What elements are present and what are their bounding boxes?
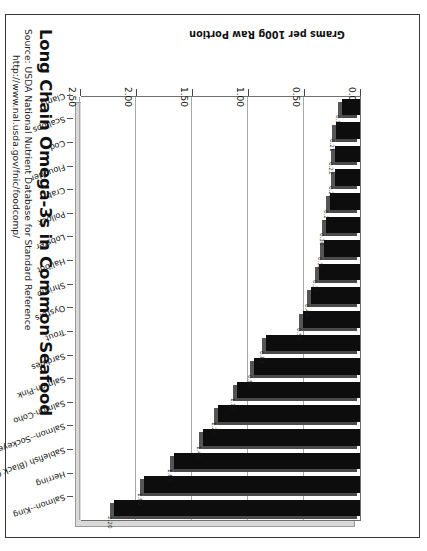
category-label: Sardines xyxy=(30,351,67,373)
category-label: Shrimp xyxy=(36,280,67,299)
bar-value-label: 0.21 xyxy=(329,139,335,151)
bar-row: 0.51 xyxy=(81,311,360,328)
category-label: Crab xyxy=(45,186,67,202)
category-tick xyxy=(67,425,73,426)
bar-top-face xyxy=(300,328,357,331)
bar-top-face xyxy=(111,516,357,519)
bar-value-label: 1.40 xyxy=(196,446,202,458)
category-tick xyxy=(67,355,73,356)
bar-value-label: 1.10 xyxy=(230,398,236,410)
bar-value-label: 0.22 xyxy=(328,186,334,198)
bar xyxy=(218,406,360,423)
bar-value-label: 1.66 xyxy=(167,469,173,481)
bar-top-face xyxy=(321,257,357,260)
category-tick xyxy=(67,473,73,474)
category-tick xyxy=(67,449,73,450)
gridline xyxy=(79,97,80,520)
bar-row: 1.10 xyxy=(81,382,360,399)
category-tick xyxy=(67,378,73,379)
bar-value-label: 0.22 xyxy=(328,162,334,174)
bar xyxy=(266,335,360,352)
x-axis-title: Grams per 100g Raw Portion xyxy=(189,29,345,40)
category-label: Cod xyxy=(48,138,66,153)
bar-row: 1.66 xyxy=(81,453,360,470)
bar-top-face xyxy=(171,469,357,472)
category-label: Trout xyxy=(44,327,67,343)
bar xyxy=(311,287,360,304)
bar-value-label: 2.20 xyxy=(107,516,113,528)
bar-row: 0.22 xyxy=(81,169,360,186)
bar xyxy=(114,500,360,517)
bar-row: 0.22 xyxy=(81,146,360,163)
bar-top-face xyxy=(141,493,357,496)
bar-value-label: 0.30 xyxy=(319,233,325,245)
bar-row: 1.93 xyxy=(81,476,360,493)
category-label: Clams xyxy=(40,91,67,109)
bar-top-face xyxy=(263,351,357,354)
bar xyxy=(324,240,360,257)
chart-page: Long Chain Omega-3s in Common Seafood So… xyxy=(0,0,427,551)
bar xyxy=(335,146,360,163)
x-axis: 0.000.501.001.502.002.50 Grams per 100g … xyxy=(81,30,361,96)
bar-value-label: 0.44 xyxy=(304,304,310,316)
category-label: Salmon-Pink xyxy=(16,374,67,401)
bar-value-label: 1.93 xyxy=(137,493,143,505)
bar-top-face xyxy=(251,375,357,378)
bar-row: 0.30 xyxy=(81,217,360,234)
rotated-figure: Long Chain Omega-3s in Common Seafood So… xyxy=(6,15,421,539)
category-label: Lobster xyxy=(35,233,67,253)
bar xyxy=(144,476,360,493)
bar-value-label: 0.95 xyxy=(247,375,253,387)
category-tick xyxy=(67,260,73,261)
bar xyxy=(335,169,360,186)
category-label: Herring xyxy=(35,469,67,489)
bar-top-face xyxy=(215,422,357,425)
plot-canvas: 2.201.931.661.401.271.100.950.840.510.44… xyxy=(81,96,361,521)
plot-area: 2.201.931.661.401.271.100.950.840.510.44… xyxy=(69,27,361,527)
category-label: Scallops xyxy=(32,115,67,136)
bar-row: 0.44 xyxy=(81,287,360,304)
bar-value-label: 0.51 xyxy=(296,328,302,340)
bar xyxy=(237,382,360,399)
category-tick xyxy=(67,166,73,167)
bar-top-face xyxy=(200,446,357,449)
bar xyxy=(326,217,360,234)
bar xyxy=(303,311,360,328)
bar-value-label: 0.84 xyxy=(259,351,265,363)
bar-top-face xyxy=(332,186,357,189)
category-tick xyxy=(67,236,73,237)
bar-value-label: 0.27 xyxy=(323,210,329,222)
bar-value-label: 0.37 xyxy=(312,280,318,292)
bar-top-face xyxy=(327,210,357,213)
bar-value-label: 1.27 xyxy=(211,422,217,434)
bar-top-face xyxy=(316,280,357,283)
category-tick xyxy=(67,142,73,143)
category-tick xyxy=(67,284,73,285)
category-tick xyxy=(67,331,73,332)
bar xyxy=(203,429,360,446)
category-tick xyxy=(67,95,73,96)
x-axis-title-wrap: Grams per 100g Raw Portion xyxy=(127,36,407,96)
category-tick xyxy=(67,189,73,190)
bar-value-label: 0.16 xyxy=(335,115,341,127)
bar-row: 2.20 xyxy=(81,500,360,517)
category-tick xyxy=(67,496,73,497)
bar-row: 0.21 xyxy=(81,122,360,139)
bar-top-face xyxy=(332,162,357,165)
category-tick xyxy=(67,213,73,214)
bar-row: 0.27 xyxy=(81,193,360,210)
bar xyxy=(330,193,360,210)
bar-series: 2.201.931.661.401.271.100.950.840.510.44… xyxy=(81,97,360,520)
bar xyxy=(319,264,360,281)
bar xyxy=(254,358,360,375)
bar-top-face xyxy=(333,139,357,142)
bar-top-face xyxy=(308,304,357,307)
bar-row: 1.40 xyxy=(81,429,360,446)
chart-frame: Long Chain Omega-3s in Common Seafood So… xyxy=(5,14,420,538)
category-labels: Salmon--KingHerringSablefish (Black Cod)… xyxy=(0,15,69,515)
bar-top-face xyxy=(234,398,357,401)
bar-top-face xyxy=(323,233,357,236)
category-tick xyxy=(67,402,73,403)
bar-row: 1.27 xyxy=(81,406,360,423)
x-tick xyxy=(80,89,81,96)
